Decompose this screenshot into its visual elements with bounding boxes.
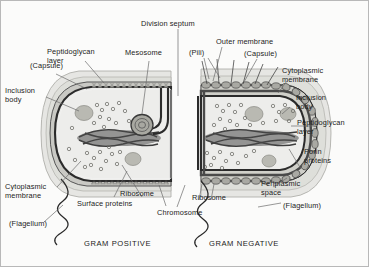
label-surface-proteins: Surface proteins bbox=[77, 199, 161, 208]
label-capsule-right: (Capsule) bbox=[244, 49, 288, 58]
mesosome bbox=[131, 115, 153, 136]
label-cytoplasmic-membrane-left: Cytoplasmic membrane bbox=[5, 182, 71, 200]
inclusion-body-right-upper bbox=[245, 107, 263, 122]
label-inclusion-body-right: Inclusion body bbox=[296, 93, 350, 111]
label-porin-proteins: Porin proteins bbox=[304, 147, 350, 165]
caption-gram-positive: GRAM POSITIVE bbox=[84, 239, 151, 248]
caption-gram-negative: GRAM NEGATIVE bbox=[209, 239, 279, 248]
label-peptidoglycan-layer-right: Peptidoglycan layer bbox=[297, 118, 367, 136]
label-inclusion-body-left: Inclusion body bbox=[5, 86, 55, 104]
label-periplasmic-space: Periplasmic space bbox=[261, 179, 323, 197]
label-pili: (Pili) bbox=[189, 48, 219, 57]
label-division-septum: Division septum bbox=[141, 19, 221, 28]
bacterial-cell-envelope-diagram: (Capsule) Peptidoglycan layer Inclusion … bbox=[0, 0, 369, 267]
label-ribosome-right: Ribosome bbox=[192, 193, 242, 202]
chromosome-mass-right bbox=[203, 130, 299, 146]
label-chromosome: Chromosome bbox=[157, 208, 217, 217]
label-flagellum-left: (Flagellum) bbox=[9, 219, 65, 228]
inclusion-body-left-upper bbox=[75, 106, 93, 121]
label-mesosome: Mesosome bbox=[125, 48, 181, 57]
inclusion-body-right-bottom bbox=[262, 155, 276, 167]
label-peptidoglycan-layer-left: Peptidoglycan layer bbox=[47, 47, 117, 65]
label-cytoplasmic-membrane-right: Cytoplasmic membrane bbox=[282, 66, 352, 84]
label-ribosome-left: Ribosome bbox=[120, 189, 172, 198]
label-flagellum-right: (Flagellum) bbox=[283, 201, 337, 210]
inclusion-body-left-lower bbox=[125, 153, 141, 166]
label-outer-membrane: Outer membrane bbox=[216, 37, 294, 46]
